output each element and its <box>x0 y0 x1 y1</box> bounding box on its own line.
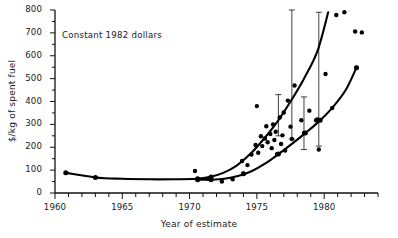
data-point <box>265 140 269 144</box>
data-point <box>317 147 321 151</box>
data-point <box>302 131 306 135</box>
data-point <box>334 13 338 17</box>
data-point <box>307 108 311 112</box>
data-point <box>256 151 260 155</box>
data-point <box>315 117 319 121</box>
data-point <box>269 146 273 150</box>
data-point <box>260 144 264 148</box>
data-point <box>292 83 296 87</box>
curve-marker <box>93 175 98 180</box>
y-tick-label: 0 <box>12 187 42 197</box>
data-point <box>255 104 259 108</box>
data-point <box>272 138 276 142</box>
data-point <box>240 159 244 163</box>
data-point <box>286 98 290 102</box>
y-tick-label: 600 <box>12 50 42 60</box>
data-point <box>353 29 357 33</box>
y-tick-label: 400 <box>12 96 42 106</box>
data-point <box>360 30 364 34</box>
data-point <box>342 10 346 14</box>
data-point <box>299 118 303 122</box>
data-point <box>206 177 210 181</box>
data-point <box>241 172 245 176</box>
y-tick-label: 200 <box>12 141 42 151</box>
y-tick-label: 500 <box>12 73 42 83</box>
data-point <box>330 106 334 110</box>
data-point <box>263 136 267 140</box>
chart-figure: Constant 1982 dollars $/kg of spent fuel… <box>0 0 398 238</box>
data-point <box>230 177 234 181</box>
data-point <box>249 152 253 156</box>
y-tick-label: 300 <box>12 118 42 128</box>
y-tick-label: 100 <box>12 164 42 174</box>
data-point <box>354 65 358 69</box>
data-point <box>283 148 287 152</box>
data-point <box>193 169 197 173</box>
data-point <box>268 132 272 136</box>
trend-curve-upper-trend-curve <box>66 12 328 179</box>
data-point <box>290 137 294 141</box>
curve-marker <box>195 177 200 182</box>
x-tick-label: 1970 <box>170 202 210 212</box>
data-point <box>259 134 263 138</box>
data-point <box>278 115 282 119</box>
data-point <box>282 110 286 114</box>
curve-marker <box>63 170 68 175</box>
data-point <box>220 179 224 183</box>
data-point <box>288 124 292 128</box>
data-point <box>264 124 268 128</box>
y-tick-label: 800 <box>12 4 42 14</box>
x-tick-label: 1975 <box>237 202 277 212</box>
x-tick-label: 1965 <box>102 202 142 212</box>
data-point <box>280 133 284 137</box>
data-point <box>271 122 275 126</box>
data-point <box>253 143 257 147</box>
data-point <box>245 163 249 167</box>
data-point <box>323 72 327 76</box>
y-tick-label: 700 <box>12 27 42 37</box>
x-tick-label: 1980 <box>304 202 344 212</box>
data-point <box>275 152 279 156</box>
x-tick-label: 1960 <box>35 202 75 212</box>
data-point <box>279 142 283 146</box>
data-point <box>274 129 278 133</box>
